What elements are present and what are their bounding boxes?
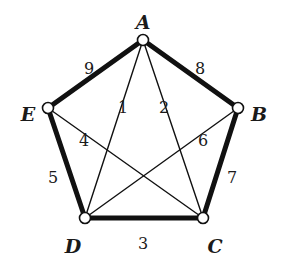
node-label-d: D [64, 235, 82, 257]
edge-weight-label-ea: 9 [84, 59, 94, 78]
edge-weight-label-ac: 2 [159, 98, 169, 117]
node-e-circle [43, 103, 54, 114]
edge-weight-label-de: 5 [48, 168, 58, 187]
node-d-circle [80, 213, 91, 224]
node-a-circle [138, 35, 149, 46]
edge-weight-label-cd: 3 [138, 234, 148, 253]
node-label-e: E [20, 103, 36, 125]
node-label-b: B [250, 103, 267, 125]
edge-weight-label-ab: 8 [195, 59, 205, 78]
weighted-graph-diagram: 873591246 ABCDE [0, 0, 284, 261]
edge-bc [203, 108, 238, 218]
edge-weight-label-ad: 1 [118, 98, 128, 117]
edges-layer [48, 40, 238, 218]
node-label-a: A [134, 11, 151, 33]
edge-de [48, 108, 85, 218]
node-c-circle [198, 213, 209, 224]
edge-weight-label-bd: 6 [198, 131, 208, 150]
edge-weight-label-ec: 4 [79, 131, 89, 150]
node-b-circle [233, 103, 244, 114]
edge-ab [143, 40, 238, 108]
edge-ea [48, 40, 143, 108]
edge-ec [48, 108, 203, 218]
nodes-layer [43, 35, 244, 224]
edge-bd [85, 108, 238, 218]
edge-weight-label-bc: 7 [227, 168, 237, 187]
node-label-c: C [207, 235, 222, 257]
